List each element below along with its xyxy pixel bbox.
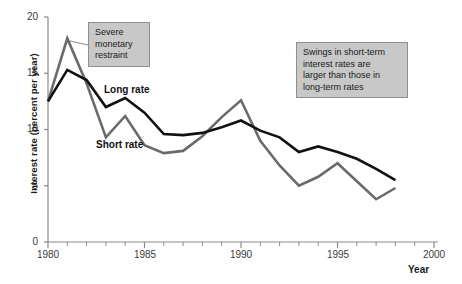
annotation-leader-line xyxy=(70,41,88,45)
series-label-long-rate: Long rate xyxy=(104,84,150,95)
annotation-severe-monetary-restraint: Severe monetary restraint xyxy=(88,22,150,67)
annotation-line: Severe xyxy=(95,27,143,39)
x-axis-ticks xyxy=(48,242,434,248)
annotation-line: interest rates are xyxy=(303,59,401,71)
annotation-line: long-term rates xyxy=(303,82,401,94)
annotation-line: Swings in short-term xyxy=(303,47,401,59)
interest-rate-chart: Interest rate (percent per year) Year 20… xyxy=(0,0,462,284)
annotation-swings-note: Swings in short-term interest rates are … xyxy=(296,42,408,98)
series-label-short-rate: Short rate xyxy=(96,139,143,150)
annotation-line: restraint xyxy=(95,50,143,62)
annotation-line: larger than those in xyxy=(303,70,401,82)
annotation-line: monetary xyxy=(95,39,143,51)
